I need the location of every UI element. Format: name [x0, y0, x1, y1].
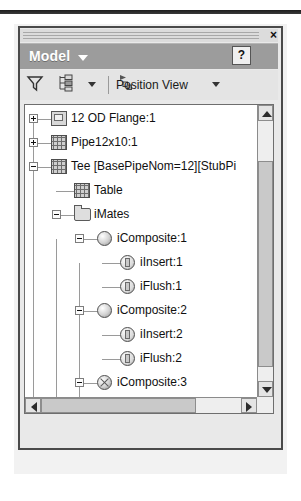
collapse-icon[interactable]: [75, 378, 84, 387]
assembly-grid-icon: [51, 159, 67, 174]
tree-item-label: Table: [94, 183, 123, 197]
chevron-down-icon[interactable]: [88, 82, 96, 87]
tree-guide-line: [79, 263, 80, 397]
tree-guide-line: [102, 263, 120, 264]
chevron-down-icon: [262, 387, 272, 393]
funnel-filter-icon[interactable]: [26, 74, 48, 96]
model-browser-panel: × Model ? Posi: [0, 0, 301, 501]
model-tree[interactable]: 12 OD Flange:1Pipe12x10:1Tee [BasePipeNo…: [24, 104, 274, 414]
tree-item-label: 12 OD Flange:1: [71, 111, 156, 125]
imate-icon: [120, 255, 135, 270]
handle-line: [23, 38, 259, 39]
scroll-right-arrow[interactable]: [241, 398, 257, 413]
page-title: Model: [29, 48, 70, 64]
collapse-icon[interactable]: [75, 234, 84, 243]
tree-item-label: iInsert:1: [140, 255, 183, 269]
tree-item-label: iComposite:1: [117, 231, 187, 245]
handle-line: [23, 35, 259, 36]
tree-guide-line: [33, 119, 34, 397]
assembly-grid-icon: [51, 135, 67, 150]
imate-icon: [120, 327, 135, 342]
handle-line: [23, 32, 259, 33]
scroll-left-arrow[interactable]: [25, 398, 41, 413]
chevron-down-icon[interactable]: [212, 82, 220, 87]
tree-item-label: iFlush:2: [140, 351, 182, 365]
chevron-right-icon: [246, 402, 252, 412]
scroll-down-arrow[interactable]: [258, 381, 273, 397]
vertical-scrollbar[interactable]: [257, 105, 273, 397]
collapse-icon[interactable]: [52, 210, 61, 219]
tree-guide-line: [102, 287, 120, 288]
sphere-icon: [97, 303, 112, 318]
chevron-left-icon: [31, 402, 37, 412]
tree-item-label: iFlush:1: [140, 279, 182, 293]
tree-item-label: iComposite:3: [117, 375, 187, 389]
chevron-up-icon: [262, 111, 272, 117]
tree-item-label: iInsert:2: [140, 327, 183, 341]
tree-hierarchy-icon[interactable]: [56, 74, 82, 96]
tree-item-label: iMates: [94, 207, 129, 221]
window-top-rule: [0, 10, 301, 14]
close-icon[interactable]: ×: [266, 28, 281, 42]
position-view-label[interactable]: Position View: [116, 78, 188, 92]
folder-icon: [74, 208, 91, 221]
toolbar-separator: [108, 76, 109, 94]
tree-guide-line: [56, 191, 74, 192]
table-grid-icon: [74, 183, 90, 198]
scrollbar-corner: [257, 397, 273, 413]
collapse-icon[interactable]: [75, 306, 84, 315]
tree-item-label: iComposite:2: [117, 303, 187, 317]
tree-guide-line: [56, 239, 57, 397]
sphere-suppressed-icon: [97, 375, 112, 390]
collapse-icon[interactable]: [29, 162, 38, 171]
tree-item-label: Pipe12x10:1: [71, 135, 138, 149]
tree-guide-line: [102, 359, 120, 360]
panel-drag-handle[interactable]: [20, 29, 278, 42]
expand-icon[interactable]: [29, 114, 38, 123]
imate-icon: [120, 351, 135, 366]
horizontal-scrollbar[interactable]: [25, 397, 257, 413]
tree-guide-line: [102, 335, 120, 336]
part-box-icon: [51, 111, 67, 126]
scroll-up-arrow[interactable]: [258, 105, 273, 121]
sphere-icon: [97, 231, 112, 246]
chevron-down-icon[interactable]: [78, 55, 88, 61]
tree-items-container: 12 OD Flange:1Pipe12x10:1Tee [BasePipeNo…: [25, 105, 257, 397]
horizontal-scroll-thumb[interactable]: [41, 398, 196, 413]
expand-icon[interactable]: [29, 138, 38, 147]
help-button[interactable]: ?: [232, 46, 251, 65]
imate-icon: [120, 279, 135, 294]
vertical-scroll-thumb[interactable]: [258, 161, 273, 367]
tree-item-label: Tee [BasePipeNom=12][StubPi: [71, 159, 236, 173]
